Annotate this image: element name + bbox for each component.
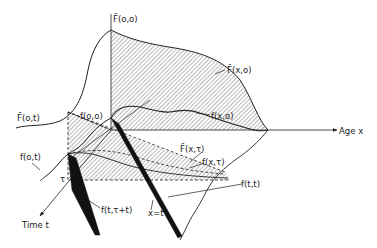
label-f-ot: f(o,t) bbox=[20, 152, 41, 162]
label-f-tt: f(t,t) bbox=[241, 179, 260, 189]
label-time-axis: Time t bbox=[21, 220, 50, 230]
label-F-bar-oo: F̄(o,o) bbox=[113, 13, 138, 24]
label-F-bar-xo: F̄(x,o) bbox=[227, 64, 251, 75]
label-f-oo: f(o,o) bbox=[80, 111, 103, 121]
leader-f-ot bbox=[32, 163, 40, 170]
leader-f-tt bbox=[168, 184, 242, 197]
label-f-ttau: f(t,τ+t) bbox=[101, 205, 132, 215]
age-time-density-diagram: F̄(o,o) F̄(x,o) F̄(o,t) f(o,o) f(x,o) F̄… bbox=[0, 0, 377, 248]
label-f-xtau: f(x,τ) bbox=[202, 157, 224, 167]
survival-surface-hatch bbox=[111, 30, 268, 130]
label-x-eq-t: x=t bbox=[148, 208, 164, 218]
label-F-bar-ot: F̄(o,t) bbox=[17, 112, 40, 123]
label-age-axis: Age x bbox=[339, 126, 363, 136]
label-F-bar-xtau: F̄(x,τ) bbox=[180, 143, 204, 154]
label-f-xo: f(x,o) bbox=[211, 111, 234, 121]
label-tau: τ bbox=[60, 174, 65, 184]
